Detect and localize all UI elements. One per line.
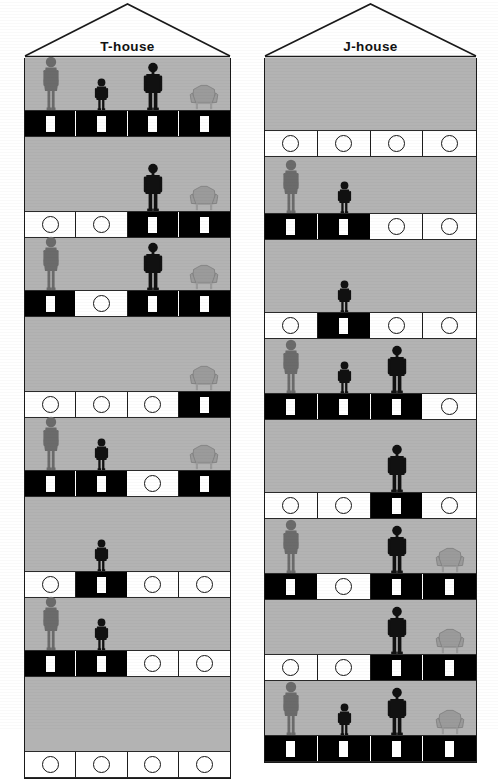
cell-filled-2[interactable] — [318, 214, 371, 239]
cell-filled-3[interactable] — [371, 493, 424, 518]
cell-filled-2[interactable] — [318, 313, 371, 338]
cell-filled-1[interactable] — [265, 394, 318, 419]
white-bar-marker — [339, 318, 348, 334]
cell-empty-3[interactable] — [371, 313, 424, 338]
circle-marker — [335, 497, 352, 514]
circle-marker — [282, 317, 299, 334]
cell-filled-2[interactable] — [76, 111, 127, 136]
cell-empty-4[interactable] — [423, 214, 476, 239]
door-band-j-house-8 — [265, 735, 476, 762]
occupant-slot-2 — [318, 157, 371, 213]
cell-empty-2[interactable] — [318, 131, 371, 156]
occupant-row — [25, 598, 230, 650]
cell-empty-3[interactable] — [128, 572, 179, 597]
cell-empty-3[interactable] — [128, 651, 179, 676]
occupant-slot-4 — [423, 157, 476, 213]
cell-empty-1[interactable] — [265, 313, 318, 338]
white-bar-marker — [46, 656, 55, 672]
occupant-slot-3 — [371, 339, 424, 393]
cell-empty-1[interactable] — [25, 212, 76, 237]
cell-filled-4[interactable] — [179, 212, 230, 237]
occupant-slot-1 — [25, 598, 76, 650]
cell-filled-4[interactable] — [423, 655, 476, 680]
cell-filled-1[interactable] — [265, 214, 318, 239]
circle-marker — [441, 497, 458, 514]
white-bar-marker — [392, 399, 401, 415]
cell-filled-4[interactable] — [179, 111, 230, 136]
cell-empty-1[interactable] — [265, 493, 318, 518]
door-band-j-house-3 — [265, 312, 476, 339]
cell-filled-4[interactable] — [423, 574, 476, 599]
occupant-slot-2 — [76, 497, 127, 571]
cell-empty-2[interactable] — [318, 655, 371, 680]
cell-empty-2[interactable] — [76, 291, 127, 316]
cell-filled-2[interactable] — [76, 651, 127, 676]
cell-filled-1[interactable] — [265, 736, 318, 761]
door-band-j-house-5 — [265, 492, 476, 519]
cell-empty-2[interactable] — [76, 392, 127, 417]
cell-empty-3[interactable] — [371, 131, 424, 156]
cell-empty-1[interactable] — [25, 392, 76, 417]
cell-filled-4[interactable] — [179, 392, 230, 417]
cell-filled-1[interactable] — [25, 651, 76, 676]
cell-filled-1[interactable] — [25, 111, 76, 136]
cell-empty-3[interactable] — [128, 471, 179, 496]
cell-empty-2[interactable] — [318, 493, 371, 518]
cell-filled-1[interactable] — [265, 574, 318, 599]
cell-filled-3[interactable] — [371, 394, 424, 419]
cell-empty-4[interactable] — [423, 493, 476, 518]
white-bar-marker — [339, 399, 348, 415]
cell-empty-3[interactable] — [128, 752, 179, 777]
room-j-house-2 — [265, 157, 476, 213]
occupant-slot-3 — [128, 317, 179, 391]
white-bar-marker — [46, 296, 55, 312]
occupant-row — [25, 137, 230, 211]
child-icon — [337, 361, 352, 393]
cell-filled-2[interactable] — [76, 572, 127, 597]
circle-marker — [282, 135, 299, 152]
cell-filled-3[interactable] — [128, 111, 179, 136]
cell-empty-4[interactable] — [179, 752, 230, 777]
cell-empty-4[interactable] — [423, 313, 476, 338]
roof-j-house: J-house — [264, 0, 477, 58]
cell-filled-3[interactable] — [371, 574, 424, 599]
cell-empty-3[interactable] — [128, 392, 179, 417]
cell-filled-2[interactable] — [318, 394, 371, 419]
cell-filled-4[interactable] — [179, 471, 230, 496]
circle-marker — [93, 756, 110, 773]
cell-empty-4[interactable] — [423, 131, 476, 156]
cell-empty-1[interactable] — [25, 572, 76, 597]
cell-empty-1[interactable] — [265, 131, 318, 156]
cell-empty-4[interactable] — [179, 572, 230, 597]
cell-filled-2[interactable] — [318, 736, 371, 761]
occupant-slot-1 — [265, 58, 318, 130]
occupant-slot-1 — [25, 317, 76, 391]
cell-filled-1[interactable] — [25, 291, 76, 316]
cell-filled-3[interactable] — [128, 291, 179, 316]
cell-empty-2[interactable] — [76, 752, 127, 777]
occupant-row — [25, 58, 230, 110]
cell-filled-3[interactable] — [371, 655, 424, 680]
cell-filled-4[interactable] — [423, 736, 476, 761]
white-bar-marker — [97, 656, 106, 672]
cell-empty-3[interactable] — [371, 214, 424, 239]
occupant-row — [25, 497, 230, 571]
cell-filled-3[interactable] — [128, 212, 179, 237]
cell-empty-4[interactable] — [179, 651, 230, 676]
cell-filled-2[interactable] — [76, 471, 127, 496]
cell-empty-4[interactable] — [423, 394, 476, 419]
cell-empty-1[interactable] — [25, 752, 76, 777]
cell-empty-2[interactable] — [318, 574, 371, 599]
occupant-slot-4 — [179, 677, 230, 751]
cell-empty-2[interactable] — [76, 212, 127, 237]
room-j-house-8 — [265, 681, 476, 735]
circle-marker — [144, 396, 161, 413]
cell-empty-1[interactable] — [265, 655, 318, 680]
occupant-slot-2 — [76, 418, 127, 470]
cell-filled-3[interactable] — [371, 736, 424, 761]
occupant-slot-4 — [423, 519, 476, 573]
child-icon — [94, 78, 109, 110]
floor-t-house-5 — [25, 418, 230, 497]
cell-filled-1[interactable] — [25, 471, 76, 496]
cell-filled-4[interactable] — [179, 291, 230, 316]
